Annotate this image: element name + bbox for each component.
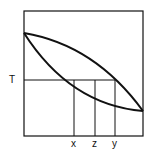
phase-diagram: [0, 0, 156, 153]
z-marker-label: z: [92, 139, 97, 149]
solidus-curve: [24, 33, 143, 111]
x-marker-label: x: [71, 139, 76, 149]
plot-frame: [24, 11, 143, 136]
t-axis-label: T: [9, 75, 15, 85]
liquidus-curve: [24, 33, 143, 111]
y-marker-label: y: [112, 139, 117, 149]
